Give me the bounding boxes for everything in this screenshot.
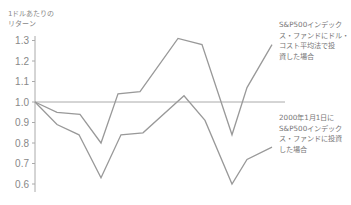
y-tick-label: 0.8	[15, 138, 29, 149]
y-tick-label: 0.9	[15, 117, 29, 128]
y-axis: 1.31.21.11.00.90.80.70.6	[15, 35, 35, 192]
y-tick-label: 0.7	[15, 158, 29, 169]
y-tick-label: 1.3	[15, 35, 29, 46]
y-axis-label: 1ドルあたりの リターン	[8, 9, 54, 29]
annotation-dollar-cost-averaging: S&P500インデック ス・ファンドにドル・ コスト平均法で投 資した場合	[279, 20, 351, 62]
y-tick-label: 1.0	[15, 97, 29, 108]
series-lines	[35, 38, 272, 184]
annotation-lump-sum-2000: 2000年1月1日に S&P500インデック ス・ファンドに投資 した場合	[279, 113, 351, 155]
series-lump-sum-2000	[35, 96, 272, 184]
series-dollar-cost-averaging	[35, 38, 272, 143]
y-tick-label: 1.1	[15, 76, 29, 87]
y-tick-label: 1.2	[15, 56, 29, 67]
y-tick-label: 0.6	[15, 179, 29, 190]
